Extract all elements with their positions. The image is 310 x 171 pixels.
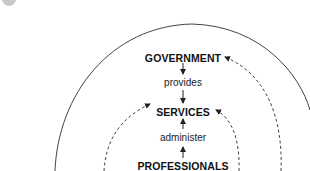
node-services: SERVICES [156,106,210,118]
node-government: GOVERNMENT [145,52,221,64]
edge-label-provides: provides [164,77,202,88]
edge-label-administer: administer [160,132,206,143]
node-professionals: PROFESSIONALS [137,160,228,171]
diagram-canvas [0,0,310,171]
middle-arc [225,57,281,171]
